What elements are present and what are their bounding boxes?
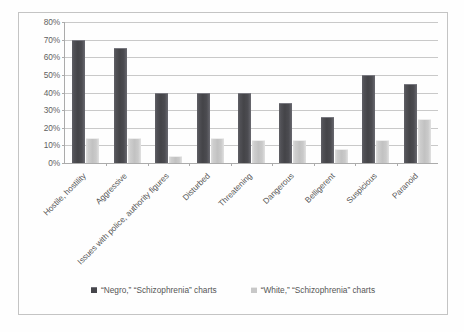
x-axis-tick-mark xyxy=(355,163,356,166)
bar-white xyxy=(211,138,224,163)
y-axis-tick-mark xyxy=(62,163,65,164)
bar-group xyxy=(355,22,396,163)
chart-legend: “Negro,” “Schizophrenia” charts“White,” … xyxy=(19,285,447,295)
bar-white xyxy=(293,140,306,163)
x-axis-tick-mark xyxy=(148,163,149,166)
y-axis-tick-label: 20% xyxy=(44,123,60,133)
x-axis-tick-mark xyxy=(189,163,190,166)
x-axis-tick-mark xyxy=(272,163,273,166)
bar-group xyxy=(314,22,355,163)
chart-frame: 80%70%60%50%40%30%20%10%0% Hostile, host… xyxy=(18,12,448,315)
bar-white xyxy=(335,149,348,163)
bar-negro xyxy=(197,93,210,164)
y-axis-tick-label: 50% xyxy=(44,70,60,80)
bar-group xyxy=(231,22,272,163)
y-axis-tick-label: 40% xyxy=(44,88,60,98)
legend-label: “White,” “Schizophrenia” charts xyxy=(261,285,375,295)
x-axis-tick-mark xyxy=(314,163,315,166)
bar-group xyxy=(148,22,189,163)
y-axis-tick-label: 0% xyxy=(48,158,60,168)
bar-white xyxy=(86,138,99,163)
bar-negro xyxy=(72,40,85,163)
bar-negro xyxy=(404,84,417,163)
square-dark-icon xyxy=(91,287,97,293)
bar-negro xyxy=(321,117,334,163)
y-axis-tick-label: 30% xyxy=(44,105,60,115)
bar-white xyxy=(252,140,265,163)
legend-label: “Negro,” “Schizophrenia” charts xyxy=(101,285,217,295)
bar-white xyxy=(169,156,182,163)
plot-area: 80%70%60%50%40%30%20%10%0% xyxy=(64,22,438,164)
x-axis-tick-mark xyxy=(106,163,107,166)
bar-groups xyxy=(65,22,438,163)
bar-group xyxy=(106,22,147,163)
y-axis-tick-label: 60% xyxy=(44,52,60,62)
bar-white xyxy=(128,138,141,163)
legend-item[interactable]: “White,” “Schizophrenia” charts xyxy=(251,285,375,295)
bar-negro xyxy=(114,48,127,163)
y-axis-tick-label: 80% xyxy=(44,17,60,27)
y-axis-tick-label: 70% xyxy=(44,35,60,45)
bar-white xyxy=(418,119,431,163)
bar-group xyxy=(65,22,106,163)
square-light-icon xyxy=(251,287,257,293)
bar-group xyxy=(189,22,230,163)
bar-group xyxy=(272,22,313,163)
y-axis-tick-label: 10% xyxy=(44,140,60,150)
bar-negro xyxy=(279,103,292,163)
bar-white xyxy=(376,140,389,163)
legend-item[interactable]: “Negro,” “Schizophrenia” charts xyxy=(91,285,217,295)
x-axis-tick-mark xyxy=(231,163,232,166)
bar-negro xyxy=(155,93,168,164)
bar-negro xyxy=(238,93,251,164)
bar-group xyxy=(397,22,438,163)
bar-negro xyxy=(362,75,375,163)
x-axis-tick-mark xyxy=(397,163,398,166)
